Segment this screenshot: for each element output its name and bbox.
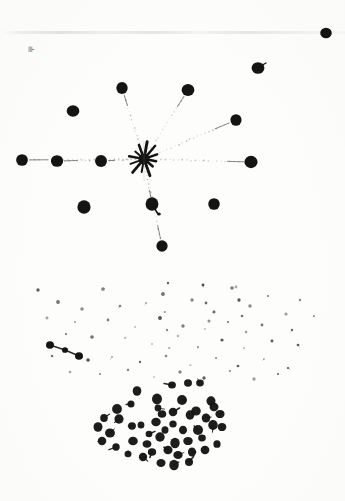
scatter-plot-svg bbox=[0, 0, 345, 501]
primary-node-group bbox=[16, 28, 332, 252]
center-node-group bbox=[129, 141, 157, 181]
figure-canvas: ⊪ bbox=[0, 0, 345, 501]
corner-mark: ⊪ bbox=[28, 46, 34, 54]
faint-halo-group bbox=[36, 282, 315, 381]
lower-cluster-group bbox=[94, 379, 227, 470]
